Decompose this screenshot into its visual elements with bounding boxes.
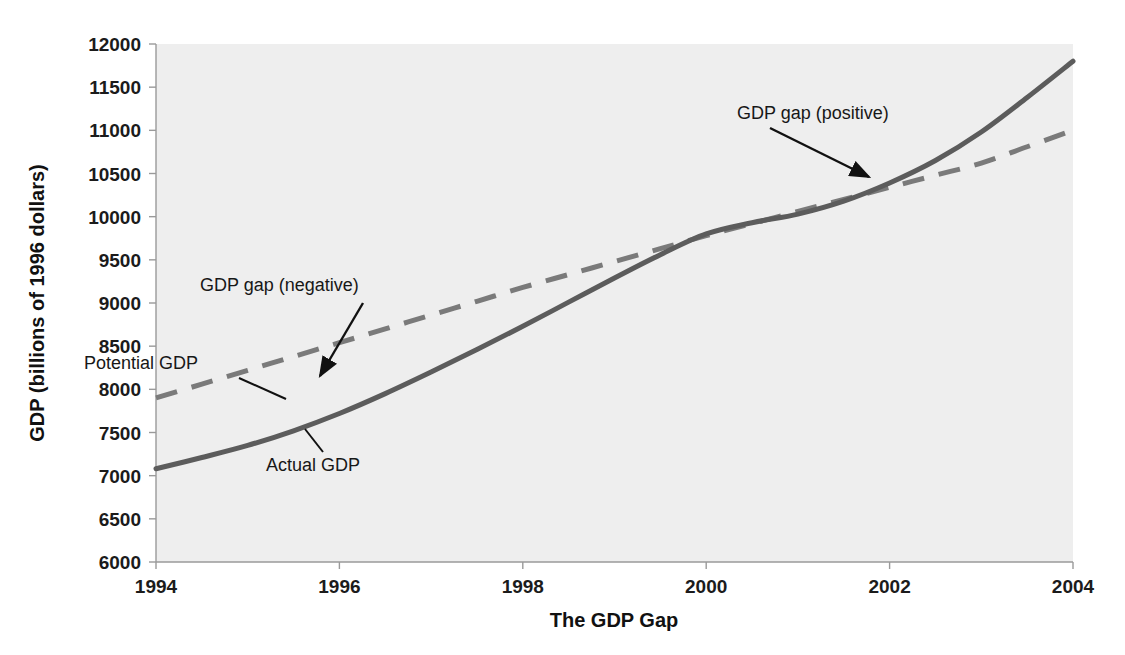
y-axis-ticks [149,44,156,562]
plot-area-background [156,44,1073,562]
x-axis-ticks [156,562,1073,569]
annotation-gdp-gap-positive: GDP gap (positive) [737,103,889,123]
y-tick-label: 12000 [88,34,141,55]
y-tick-label: 7000 [99,466,141,487]
annotation-actual-gdp: Actual GDP [266,455,360,475]
gdp-gap-chart-figure: 1200011500110001050010000950090008500800… [0,0,1125,655]
y-tick-label: 11000 [89,120,141,141]
x-tick-label: 1994 [135,576,178,597]
x-tick-label: 1998 [502,576,544,597]
y-tick-label: 8000 [99,379,141,400]
annotation-potential-gdp: Potential GDP [84,353,198,373]
chart-canvas: 1200011500110001050010000950090008500800… [0,0,1125,655]
y-tick-label: 9000 [99,293,141,314]
y-axis-tick-labels: 1200011500110001050010000950090008500800… [88,34,141,573]
y-axis-title: GDP (billions of 1996 dollars) [26,164,48,441]
y-tick-label: 7500 [99,423,141,444]
y-tick-label: 10500 [88,164,141,185]
y-tick-label: 11500 [89,77,141,98]
x-axis-tick-labels: 199419961998200020022004 [135,576,1095,597]
y-tick-label: 9500 [99,250,141,271]
x-tick-label: 2004 [1052,576,1095,597]
y-tick-label: 6000 [99,552,141,573]
x-tick-label: 2000 [685,576,727,597]
x-axis-title: The GDP Gap [550,609,679,631]
y-tick-label: 6500 [99,509,141,530]
y-tick-label: 10000 [88,207,141,228]
x-tick-label: 1996 [318,576,360,597]
annotation-gdp-gap-negative: GDP gap (negative) [200,275,359,295]
x-tick-label: 2002 [868,576,910,597]
